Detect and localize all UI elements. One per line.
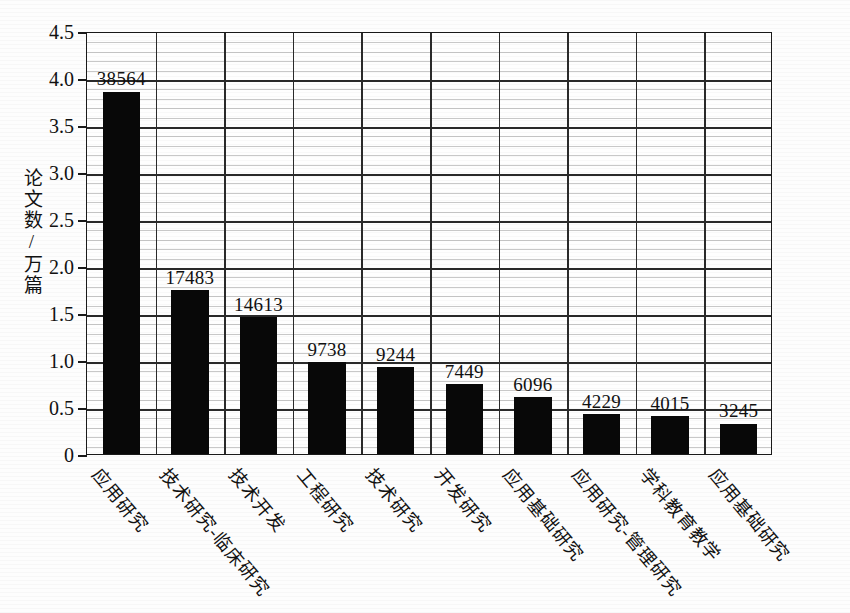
x-axis-tick-label: 应用研究 <box>87 462 156 537</box>
minor-gridline <box>87 183 771 184</box>
bar <box>583 414 620 454</box>
y-axis-tick <box>78 361 87 363</box>
x-axis-tick-label: 技术研究 <box>361 462 430 537</box>
y-axis-tick-label: 2.5 <box>49 209 74 232</box>
bar-value-label: 17483 <box>143 267 236 289</box>
bar-value-label: 38564 <box>75 68 168 90</box>
minor-gridline <box>87 108 771 109</box>
major-gridline <box>87 80 771 82</box>
major-gridline <box>87 127 771 129</box>
bar <box>514 397 551 454</box>
bar <box>651 416 688 454</box>
bar-value-label: 14613 <box>212 294 305 316</box>
category-separator <box>224 33 226 454</box>
y-axis-tick <box>78 126 87 128</box>
x-axis-tick-label: 工程研究 <box>292 462 361 537</box>
minor-gridline <box>87 71 771 72</box>
minor-gridline <box>87 136 771 137</box>
category-separator <box>430 33 432 454</box>
bar <box>720 424 757 455</box>
minor-gridline <box>87 118 771 119</box>
minor-gridline <box>87 240 771 241</box>
bar-value-label: 3245 <box>692 400 785 422</box>
y-axis-tick <box>78 267 87 269</box>
y-axis-tick <box>78 455 87 457</box>
x-axis-tick-label: 技术开发 <box>224 462 293 537</box>
y-axis-tick-label: 1.0 <box>49 350 74 373</box>
chart-figure: 论文数/万篇 00.51.01.52.02.53.03.54.04.5 3856… <box>0 0 850 613</box>
y-axis-tick-label: 1.5 <box>49 303 74 326</box>
minor-gridline <box>87 52 771 53</box>
bar <box>377 367 414 454</box>
category-separator <box>156 33 158 454</box>
plot-area: 00.51.01.52.02.53.03.54.04.5 38564174831… <box>86 32 772 455</box>
y-axis-tick-label: 3.0 <box>49 162 74 185</box>
category-separator <box>293 33 295 454</box>
y-axis-tick-label: 0 <box>64 444 74 467</box>
category-separator <box>704 33 706 454</box>
y-axis-tick <box>78 220 87 222</box>
bar <box>446 384 483 454</box>
minor-gridline <box>87 61 771 62</box>
bar <box>240 317 277 454</box>
major-gridline <box>87 174 771 176</box>
y-axis-tick-label: 3.5 <box>49 115 74 138</box>
minor-gridline <box>87 155 771 156</box>
minor-gridline <box>87 230 771 231</box>
minor-gridline <box>87 249 771 250</box>
minor-gridline <box>87 99 771 100</box>
minor-gridline <box>87 42 771 43</box>
y-axis-title: 论文数/万篇 <box>18 168 45 296</box>
y-axis-tick <box>78 173 87 175</box>
major-gridline <box>87 221 771 223</box>
y-axis-tick-label: 4.0 <box>49 68 74 91</box>
bar <box>103 92 140 455</box>
y-axis-tick-label: 2.0 <box>49 256 74 279</box>
bar <box>171 290 208 454</box>
minor-gridline <box>87 259 771 260</box>
minor-gridline <box>87 89 771 90</box>
minor-gridline <box>87 202 771 203</box>
y-axis-tick-label: 0.5 <box>49 397 74 420</box>
category-separator <box>361 33 363 454</box>
minor-gridline <box>87 165 771 166</box>
bar <box>308 362 345 454</box>
minor-gridline <box>87 212 771 213</box>
y-axis-tick <box>78 314 87 316</box>
minor-gridline <box>87 193 771 194</box>
y-axis-tick <box>78 32 87 34</box>
minor-gridline <box>87 146 771 147</box>
y-axis-tick-label: 4.5 <box>49 21 74 44</box>
y-axis-tick <box>78 408 87 410</box>
x-axis-tick-label: 开发研究 <box>430 462 499 537</box>
